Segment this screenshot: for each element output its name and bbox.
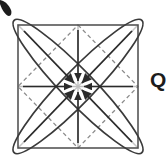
figure-root: Q (0, 0, 166, 161)
geometry-canvas (0, 0, 166, 161)
corner-mark (0, 0, 11, 16)
q-label: Q (150, 69, 166, 90)
